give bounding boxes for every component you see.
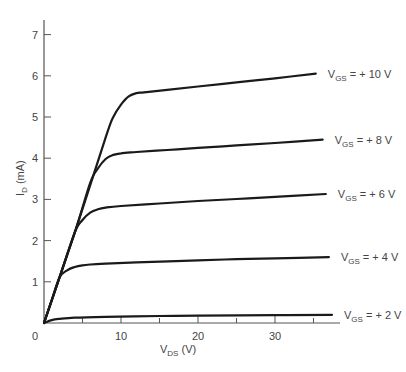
curve-label: VGS = + 8 V xyxy=(335,134,393,149)
x-tick-label: 20 xyxy=(192,330,204,342)
y-tick-label: 5 xyxy=(32,111,38,123)
curve-label: VGS = + 2 V xyxy=(344,309,402,324)
curve-3 xyxy=(44,257,329,323)
y-tick-label: 4 xyxy=(32,152,38,164)
y-tick-label: 2 xyxy=(32,235,38,247)
y-tick-label: 3 xyxy=(32,193,38,205)
y-axis-label: ID (mA) xyxy=(14,160,29,196)
origin-label: 0 xyxy=(32,330,38,342)
y-tick-label: 6 xyxy=(32,70,38,82)
curve-4 xyxy=(44,315,332,323)
curve-label: VGS = + 6 V xyxy=(338,188,396,203)
x-tick-label: 30 xyxy=(269,330,281,342)
x-tick-label: 10 xyxy=(115,330,127,342)
y-tick-label: 7 xyxy=(32,29,38,41)
y-tick-label: 1 xyxy=(32,276,38,288)
chart: 12345671020300VDS (V)ID (mA)VGS = + 10 V… xyxy=(0,0,406,372)
axes xyxy=(44,20,340,323)
curves xyxy=(44,74,332,323)
curve-1 xyxy=(44,140,323,323)
x-axis-label: VDS (V) xyxy=(160,343,196,358)
labels: 12345671020300VDS (V)ID (mA)VGS = + 10 V… xyxy=(14,29,402,358)
curve-label: VGS = + 4 V xyxy=(341,251,399,266)
curve-label: VGS = + 10 V xyxy=(328,68,392,83)
